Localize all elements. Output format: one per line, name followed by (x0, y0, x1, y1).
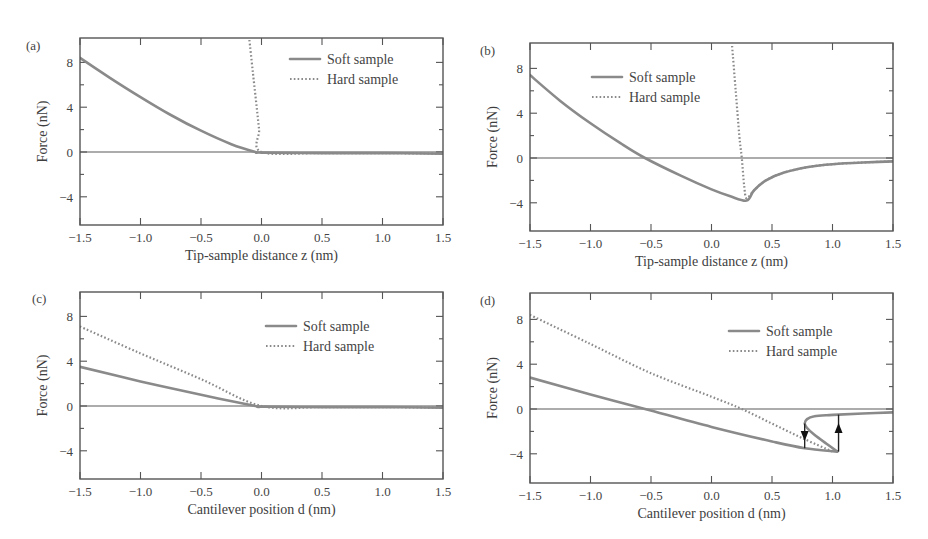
y-tick-label: 0 (517, 402, 524, 417)
x-tick-label: 1.0 (824, 488, 840, 503)
x-tick-label: 0.0 (253, 230, 269, 245)
x-tick-label: 0.5 (764, 236, 780, 251)
y-tick-label: 4 (517, 357, 524, 372)
x-tick-label: 1.0 (824, 236, 840, 251)
panel-label: (c) (32, 291, 46, 306)
soft-sample-curve (530, 378, 837, 452)
panel-b: (b)−1.5−1.0−0.50.00.51.01.5Tip-sample di… (480, 43, 901, 270)
x-axis-title: Tip-sample distance z (nm) (185, 248, 338, 264)
y-tick-label: 8 (67, 55, 74, 70)
x-axis: −1.5−1.0−0.50.00.51.01.5 (68, 292, 451, 499)
panel-a: (a)−1.5−1.0−0.50.00.51.01.5Tip-sample di… (26, 38, 451, 264)
x-tick-label: −0.5 (189, 484, 213, 499)
legend: Soft sampleHard sample (729, 324, 837, 359)
soft-sample-curve (80, 367, 443, 408)
legend-hard-label: Hard sample (766, 344, 837, 359)
y-axis-title: Force (nN) (485, 357, 501, 419)
x-tick-label: 0.5 (314, 230, 330, 245)
legend: Soft sampleHard sample (592, 70, 700, 105)
x-tick-label: −0.5 (639, 488, 663, 503)
x-axis: −1.5−1.0−0.50.00.51.01.5 (68, 38, 451, 245)
x-axis: −1.5−1.0−0.50.00.51.01.5 (518, 43, 901, 251)
x-tick-label: 0.5 (764, 488, 780, 503)
x-tick-label: −1.0 (129, 484, 153, 499)
x-tick-label: −1.0 (129, 230, 153, 245)
y-tick-label: 0 (67, 399, 74, 414)
y-tick-label: 0 (67, 145, 74, 160)
figure-canvas: (a)−1.5−1.0−0.50.00.51.01.5Tip-sample di… (0, 0, 928, 539)
legend-soft-label: Soft sample (327, 52, 394, 67)
y-tick-label: 0 (517, 151, 524, 166)
panel-label: (a) (26, 38, 40, 53)
panel-d: (d)−1.5−1.0−0.50.00.51.01.5Cantilever po… (480, 293, 901, 522)
x-axis-title: Cantilever position d (nm) (637, 506, 785, 522)
legend: Soft sampleHard sample (290, 52, 398, 87)
legend-soft-label: Soft sample (766, 324, 833, 339)
x-tick-label: −0.5 (189, 230, 213, 245)
legend-soft-label: Soft sample (629, 70, 696, 85)
y-axis: 840−4 (509, 61, 893, 210)
plot-area (530, 46, 893, 201)
x-tick-label: 1.0 (374, 230, 390, 245)
y-axis-title: Force (nN) (485, 106, 501, 168)
x-tick-label: −1.5 (68, 230, 92, 245)
y-tick-label: 4 (67, 100, 74, 115)
legend-hard-label: Hard sample (629, 90, 700, 105)
pull-off-arrow-icon (835, 415, 843, 452)
plot-area (80, 327, 443, 409)
y-tick-label: 4 (517, 106, 524, 121)
x-tick-label: 1.5 (435, 230, 451, 245)
x-tick-label: 1.5 (885, 488, 901, 503)
x-tick-label: −1.5 (68, 484, 92, 499)
plot-frame (530, 43, 893, 231)
x-axis-title: Cantilever position d (nm) (187, 502, 335, 518)
x-tick-label: 1.5 (885, 236, 901, 251)
soft-sample-curve (530, 75, 893, 201)
x-tick-label: −1.5 (518, 488, 542, 503)
x-tick-label: −1.0 (579, 488, 603, 503)
y-tick-label: −4 (509, 196, 523, 211)
x-tick-label: 0.5 (314, 484, 330, 499)
y-tick-label: 8 (517, 61, 524, 76)
hard-sample-curve (80, 327, 443, 409)
x-tick-label: 1.0 (374, 484, 390, 499)
panel-label: (b) (480, 43, 495, 58)
plot-frame (80, 292, 443, 479)
y-tick-label: −4 (59, 444, 73, 459)
plot-frame (530, 293, 893, 483)
x-tick-label: 0.0 (703, 236, 719, 251)
panel-label: (d) (480, 293, 495, 308)
y-axis: 840−4 (59, 309, 443, 458)
x-axis: −1.5−1.0−0.50.00.51.01.5 (518, 293, 901, 503)
x-axis-title: Tip-sample distance z (nm) (635, 254, 788, 270)
legend-hard-label: Hard sample (303, 339, 374, 354)
x-tick-label: 0.0 (253, 484, 269, 499)
panel-c: (c)−1.5−1.0−0.50.00.51.01.5Cantilever po… (32, 291, 451, 518)
y-tick-label: 4 (67, 354, 74, 369)
y-tick-label: −4 (59, 190, 73, 205)
y-axis-title: Force (nN) (35, 100, 51, 162)
legend-hard-label: Hard sample (327, 72, 398, 87)
y-tick-label: 8 (67, 309, 74, 324)
legend: Soft sampleHard sample (266, 319, 374, 354)
hard-sample-curve (732, 46, 893, 198)
x-tick-label: −0.5 (639, 236, 663, 251)
plot-area (530, 315, 893, 452)
y-axis-title: Force (nN) (35, 354, 51, 416)
x-tick-label: −1.5 (518, 236, 542, 251)
x-tick-label: −1.0 (579, 236, 603, 251)
y-tick-label: −4 (509, 447, 523, 462)
x-tick-label: 0.0 (703, 488, 719, 503)
y-tick-label: 8 (517, 312, 524, 327)
legend-soft-label: Soft sample (303, 319, 370, 334)
x-tick-label: 1.5 (435, 484, 451, 499)
